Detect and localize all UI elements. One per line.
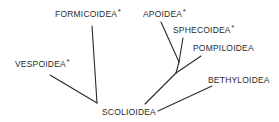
node-name: BETHYLOIDEA xyxy=(208,75,270,85)
edge-vespoidea-to-scolioidea-left-junction xyxy=(50,75,97,103)
node-name: VESPOIDEA xyxy=(15,59,66,69)
node-name: FORMICOIDEA xyxy=(55,9,117,19)
edge-bethyloidea-to-scolioidea xyxy=(158,86,212,111)
node-label-scolioidea: SCOLIOIDEA xyxy=(102,107,156,117)
edge-formicoidea-to-scolioidea-left-junction xyxy=(92,26,97,103)
asterisk-marker: * xyxy=(118,7,121,16)
edge-sphecoidea-to-apo-sphec-junction xyxy=(179,38,183,62)
asterisk-marker: * xyxy=(66,57,69,66)
edge-pompilo-junction-to-scolioidea xyxy=(145,73,176,104)
phylogenetic-tree-diagram: FORMICOIDEA*VESPOIDEA*APOIDEA*SPHECOIDEA… xyxy=(0,0,279,122)
node-label-apoidea: APOIDEA* xyxy=(143,9,186,19)
asterisk-marker: * xyxy=(231,23,234,32)
node-name: APOIDEA xyxy=(143,9,182,19)
node-label-formicoidea: FORMICOIDEA* xyxy=(55,9,121,19)
node-label-pompiloidea: POMPILOIDEA xyxy=(193,43,254,53)
node-name: SCOLIOIDEA xyxy=(102,107,156,117)
node-label-sphecoidea: SPHECOIDEA* xyxy=(173,25,235,35)
asterisk-marker: * xyxy=(183,7,186,16)
node-label-vespoidea: VESPOIDEA* xyxy=(15,59,70,69)
node-label-bethyloidea: BETHYLOIDEA xyxy=(208,75,270,85)
node-name: POMPILOIDEA xyxy=(193,43,254,53)
node-name: SPHECOIDEA xyxy=(173,25,231,35)
